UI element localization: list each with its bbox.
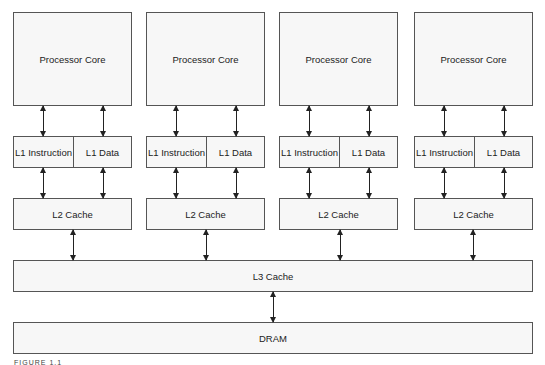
- processor-core-box: Processor Core: [13, 12, 132, 106]
- arrow-core-l1d: [103, 106, 104, 136]
- l1-data-label: L1 Data: [86, 147, 119, 158]
- processor-core-box: Processor Core: [414, 12, 533, 106]
- arrow-l1d-l2: [236, 168, 237, 198]
- arrow-l1d-l2: [504, 168, 505, 198]
- processor-core-label: Processor Core: [306, 54, 372, 65]
- l2-cache-box: L2 Cache: [279, 198, 398, 230]
- arrow-core-l1i: [176, 106, 177, 136]
- l1-data-label: L1 Data: [487, 147, 520, 158]
- arrow-l2-l3: [73, 230, 74, 260]
- l1-data-box: L1 Data: [206, 136, 265, 168]
- l2-cache-box: L2 Cache: [146, 198, 265, 230]
- arrow-core-l1i: [43, 106, 44, 136]
- arrow-l1d-l2: [369, 168, 370, 198]
- l3-cache-label: L3 Cache: [253, 271, 294, 282]
- l1-instruction-box: L1 Instruction: [146, 136, 207, 168]
- arrow-l1d-l2: [103, 168, 104, 198]
- processor-core-box: Processor Core: [279, 12, 398, 106]
- l2-cache-box: L2 Cache: [414, 198, 533, 230]
- processor-core-box: Processor Core: [146, 12, 265, 106]
- arrow-l3-dram: [273, 292, 274, 322]
- l1-instruction-box: L1 Instruction: [279, 136, 340, 168]
- l1-instruction-box: L1 Instruction: [13, 136, 74, 168]
- l1-data-box: L1 Data: [474, 136, 533, 168]
- arrow-l2-l3: [473, 230, 474, 260]
- processor-core-label: Processor Core: [441, 54, 507, 65]
- arrow-core-l1i: [444, 106, 445, 136]
- processor-core-label: Processor Core: [173, 54, 239, 65]
- l1-data-box: L1 Data: [73, 136, 132, 168]
- l2-cache-box: L2 Cache: [13, 198, 132, 230]
- l1-instruction-label: L1 Instruction: [416, 147, 473, 158]
- arrow-core-l1i: [309, 106, 310, 136]
- l1-data-box: L1 Data: [339, 136, 398, 168]
- l1-instruction-box: L1 Instruction: [414, 136, 475, 168]
- l2-cache-label: L2 Cache: [453, 209, 494, 220]
- dram-box: DRAM: [13, 322, 533, 354]
- l2-cache-label: L2 Cache: [318, 209, 359, 220]
- arrow-core-l1d: [369, 106, 370, 136]
- arrow-l2-l3: [340, 230, 341, 260]
- l1-instruction-label: L1 Instruction: [281, 147, 338, 158]
- arrow-l1i-l2: [309, 168, 310, 198]
- arrow-core-l1d: [504, 106, 505, 136]
- l1-instruction-label: L1 Instruction: [15, 147, 72, 158]
- l1-data-label: L1 Data: [352, 147, 385, 158]
- dram-label: DRAM: [259, 333, 287, 344]
- arrow-l1i-l2: [176, 168, 177, 198]
- arrow-core-l1d: [236, 106, 237, 136]
- l2-cache-label: L2 Cache: [52, 209, 93, 220]
- figure-caption: FIGURE 1.1: [14, 359, 62, 365]
- arrow-l1i-l2: [444, 168, 445, 198]
- processor-core-label: Processor Core: [40, 54, 106, 65]
- l1-instruction-label: L1 Instruction: [148, 147, 205, 158]
- l3-cache-box: L3 Cache: [13, 260, 533, 292]
- arrow-l2-l3: [206, 230, 207, 260]
- l1-data-label: L1 Data: [219, 147, 252, 158]
- l2-cache-label: L2 Cache: [185, 209, 226, 220]
- arrow-l1i-l2: [43, 168, 44, 198]
